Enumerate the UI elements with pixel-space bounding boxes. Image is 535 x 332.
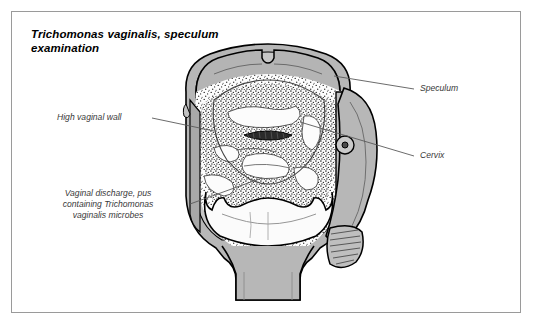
speculum-grip-ribs <box>327 226 363 268</box>
label-speculum: Speculum <box>420 83 458 94</box>
speculum-shaft <box>222 246 314 300</box>
label-discharge: Vaginal discharge, pus containing Tricho… <box>47 188 169 221</box>
illustration-canvas <box>0 0 535 332</box>
label-high-vaginal-wall: High vaginal wall <box>57 112 122 123</box>
label-cervix: Cervix <box>420 150 444 161</box>
figure-root: Trichomonas vaginalis, speculum examinat… <box>0 0 535 332</box>
speculum-pivot-screw <box>336 136 354 154</box>
